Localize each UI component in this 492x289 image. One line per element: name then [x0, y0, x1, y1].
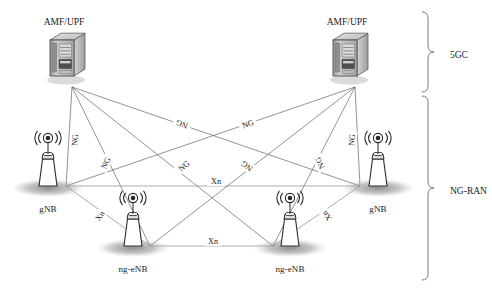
server-panel-dark [59, 60, 72, 69]
xn-link-label-wrap: Xn [204, 236, 222, 246]
node-tower-body [39, 159, 57, 186]
group-bracket: NG-RAN [422, 96, 487, 280]
bracket-shape [422, 12, 434, 92]
core-node[interactable]: AMF/UPF [44, 17, 85, 85]
ran-node-label: gNB [39, 204, 56, 214]
antenna-wave-left-icon [277, 191, 279, 204]
ng-link-label-wrap: NG [238, 116, 258, 131]
server-side-face [357, 33, 368, 76]
server-status-bar [60, 61, 71, 63]
server-base-slot [342, 71, 355, 74]
antenna-signal-dot-icon [288, 196, 293, 201]
ng-link-label-wrap: NG [237, 157, 257, 176]
server-bezel-strip [52, 43, 57, 72]
group-label: NG-RAN [450, 186, 487, 196]
node-tower-body [369, 159, 387, 186]
antenna-wave-right-icon [301, 191, 303, 204]
ng-link-label-wrap: NG [172, 117, 192, 132]
node-tower-body [124, 219, 142, 246]
group-brackets: 5GCNG-RAN [422, 12, 487, 280]
ng-link-label: NG [347, 134, 357, 147]
antenna-wave-right-icon [144, 191, 146, 204]
antenna-wave-right-icon [386, 133, 388, 142]
ran-node-label: gNB [369, 204, 386, 214]
antenna-wave-left-icon [365, 131, 367, 144]
core-node-label: AMF/UPF [327, 17, 368, 27]
antenna-wave-right-icon [389, 131, 391, 144]
group-label: 5GC [450, 50, 468, 60]
xn-link-label-wrap: Xn [91, 206, 110, 226]
ng-link-label-wrap: NG [346, 131, 358, 150]
bracket-shape [422, 96, 434, 280]
ran-node[interactable]: ng-eNB [254, 191, 326, 274]
server-shadow [47, 76, 85, 85]
ng-link-label-wrap: NG [69, 131, 81, 150]
antenna-wave-left-icon [120, 191, 122, 204]
antenna-signal-dot-icon [46, 136, 51, 141]
core-node[interactable]: AMF/UPF [327, 17, 368, 85]
xn-link-label-wrap: Xn [318, 206, 337, 226]
antenna-wave-left-icon [35, 131, 37, 144]
ran-node[interactable]: ng-eNB [97, 191, 169, 274]
node-tower-body [281, 219, 299, 246]
ng-link-label-wrap: NG [174, 156, 194, 175]
ran-node-label: ng-eNB [275, 264, 304, 274]
ran-nodes-group: gNBng-eNBng-eNBgNB [12, 131, 414, 274]
antenna-signal-dot-icon [131, 196, 136, 201]
server-side-face [74, 33, 85, 76]
antenna-wave-left-icon [281, 193, 283, 202]
core-nodes-group: AMF/UPFAMF/UPF [44, 17, 368, 85]
server-status-bar [343, 61, 354, 63]
antenna-wave-left-icon [369, 133, 371, 142]
antenna-wave-right-icon [141, 193, 143, 202]
xn-link-label: Xn [211, 177, 221, 186]
ran-node-label: ng-eNB [118, 264, 147, 274]
antenna-wave-right-icon [59, 131, 61, 144]
antenna-signal-dot-icon [376, 136, 381, 141]
ng-link-line [72, 87, 360, 186]
server-bezel-strip [335, 43, 340, 72]
core-node-label: AMF/UPF [44, 17, 85, 27]
server-shadow [330, 76, 368, 85]
server-drive-bay [342, 44, 355, 57]
antenna-wave-right-icon [56, 133, 58, 142]
xn-link-label-wrap: Xn [207, 176, 225, 186]
antenna-wave-left-icon [39, 133, 41, 142]
group-bracket: 5GC [422, 12, 468, 92]
server-panel-dark [342, 60, 355, 69]
ng-link-label: NG [70, 134, 80, 147]
xn-link-label: Xn [208, 237, 218, 246]
network-architecture-diagram: gNBng-eNBng-eNBgNB AMF/UPFAMF/UPF NGNGNG… [0, 0, 492, 289]
ng-link-labels-group: NGNGNGNGNGNGNGNG [69, 116, 358, 175]
server-base-slot [59, 71, 72, 74]
server-drive-bay [59, 44, 72, 57]
